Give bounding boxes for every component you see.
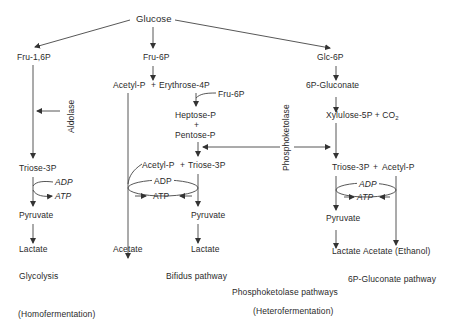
fermentation-pathways-diagram: Glucose Fru-1,6P Aldolase Triose-3P ADP … — [0, 0, 456, 331]
plus-sign-2: + — [194, 120, 199, 130]
bifidus-pathway-label: Bifidus pathway — [166, 271, 227, 281]
atp-label: ATP — [55, 191, 71, 201]
phosphoketolase-enzyme-label: Phosphoketolase — [281, 104, 291, 171]
plus-sign-3: + — [180, 160, 185, 170]
aldolase-enzyme-label: Aldolase — [66, 100, 76, 133]
fru16p-node: Fru-1,6P — [17, 52, 51, 62]
atp-curve — [33, 190, 52, 196]
plus-sign-glu: + — [373, 162, 378, 172]
phosphoketolase-pathways-label: Phosphoketolase pathways — [232, 287, 338, 297]
triose3p-node-glu: Triose-3P — [332, 162, 369, 172]
atp-label-bif: ATP — [153, 191, 169, 201]
acetylp-node: Acetyl-P — [113, 80, 145, 90]
adp-label: ADP — [55, 177, 73, 187]
heptosep-node: Heptose-P — [175, 110, 216, 120]
glycolysis-pathway-label: Glycolysis — [19, 271, 58, 281]
homofermentation-label: (Homofermentation) — [18, 309, 95, 319]
glc6p-node: Glc-6P — [317, 52, 344, 62]
arrow-glucose-to-fru16p — [35, 20, 130, 47]
heterofermentation-label: (Heterofermentation) — [253, 306, 333, 316]
fru6p-node: Fru-6P — [143, 52, 170, 62]
pentosep-node: Pentose-P — [175, 130, 216, 140]
lactate-node-bif: Lactate — [191, 244, 220, 254]
triose3p-node-bif: Triose-3P — [188, 160, 225, 170]
lactate-node: Lactate — [19, 244, 48, 254]
adp-label-glu: ADP — [357, 179, 379, 189]
plus-sign: + — [151, 80, 156, 90]
lactate-node-glu: Lactate — [332, 246, 361, 256]
fru6p-side-node: Fru-6P — [218, 89, 245, 99]
triose3p-node: Triose-3P — [19, 163, 56, 173]
co2-text: + CO — [375, 110, 395, 120]
erythrose4p-node: Erythrose-4P — [159, 80, 210, 90]
acetate-node-bif: Acetate — [113, 244, 143, 254]
atp-label-glu: ATP — [357, 192, 373, 202]
xylulose-text: Xylulose-5P — [326, 110, 372, 120]
gluconate-pathway-label: 6P-Gluconate pathway — [348, 274, 436, 284]
glucose-node: Glucose — [134, 14, 174, 24]
arrow-glucose-to-glc6p — [175, 20, 330, 48]
adp-curve — [33, 181, 53, 186]
6p-gluconate-node: 6P-Gluconate — [306, 80, 359, 90]
xylulose5p-co2-node: Xylulose-5P + CO2 — [326, 110, 399, 120]
acetylp-node-glu: Acetyl-P — [382, 162, 414, 172]
co2-subscript: 2 — [395, 115, 398, 121]
pyruvate-node-glu: Pyruvate — [326, 213, 360, 223]
acetate-ethanol-node: Acetate (Ethanol) — [363, 246, 430, 256]
pyruvate-node-bif: Pyruvate — [191, 210, 225, 220]
pyruvate-node: Pyruvate — [19, 210, 53, 220]
fru6p-side-curve — [196, 93, 216, 98]
acetylp-node-2: Acetyl-P — [142, 160, 174, 170]
acetylp-curve — [128, 164, 142, 184]
adp-label-bif: ADP — [152, 176, 174, 186]
